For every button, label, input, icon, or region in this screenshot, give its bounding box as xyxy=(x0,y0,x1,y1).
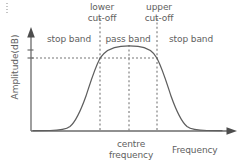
label-upper-cutoff: upper cut-off xyxy=(133,2,185,24)
label-stop-band-left: stop band xyxy=(41,34,97,45)
label-centre-frequency-line1: centre xyxy=(117,139,145,149)
label-centre-frequency-line2: frequency xyxy=(109,150,153,160)
response-curve xyxy=(33,46,222,131)
band-pass-filter-figure: lower cut-off upper cut-off stop band pa… xyxy=(0,0,242,168)
label-centre-frequency: centre frequency xyxy=(100,139,162,161)
label-lower-cutoff-line2: cut-off xyxy=(88,13,117,23)
label-pass-band: pass band xyxy=(101,34,155,45)
label-upper-cutoff-line1: upper xyxy=(146,2,172,12)
y-axis-label: Amplitude(dB) xyxy=(10,22,20,112)
label-upper-cutoff-line2: cut-off xyxy=(145,13,174,23)
label-stop-band-right: stop band xyxy=(163,34,219,45)
y-axis xyxy=(27,27,35,131)
label-lower-cutoff-line1: lower xyxy=(90,2,114,12)
label-lower-cutoff: lower cut-off xyxy=(76,2,128,24)
x-axis-label: Frequency xyxy=(172,145,238,156)
